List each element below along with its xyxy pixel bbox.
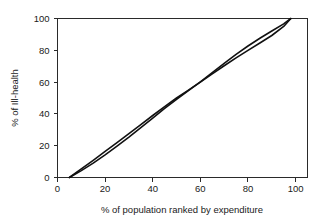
y-tick-label: 0: [44, 172, 49, 183]
chart-figure: 020406080100 020406080100 % of populatio…: [0, 0, 325, 221]
y-axis-title: % of Ill-health: [9, 69, 20, 127]
x-tick-label: 40: [147, 183, 158, 194]
y-tick-label: 60: [39, 77, 50, 88]
y-tick-label: 20: [39, 140, 50, 151]
y-tick-label: 40: [39, 108, 50, 119]
y-tick-label: 100: [34, 13, 50, 24]
x-axis-title: % of population ranked by expenditure: [101, 204, 263, 215]
y-tick-label: 80: [39, 45, 50, 56]
x-tick-label: 20: [100, 183, 111, 194]
x-tick-label: 100: [288, 183, 304, 194]
line-chart: 020406080100 020406080100 % of populatio…: [0, 0, 325, 221]
plot-frame: [58, 19, 308, 178]
x-tick-label: 80: [243, 183, 254, 194]
x-tick-label: 0: [55, 183, 60, 194]
x-tick-label: 60: [195, 183, 206, 194]
